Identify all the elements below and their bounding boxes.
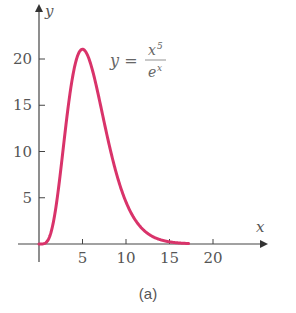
x-ticks: 5101520: [78, 239, 223, 267]
chart: 5101520 5101520 x y y = x 5 e x: [0, 0, 296, 285]
equation-annotation: y = x 5 e x: [109, 41, 166, 80]
y-tick-label: 20: [13, 50, 32, 68]
y-tick-label: 5: [22, 189, 32, 207]
y-ticks: 5101520: [13, 50, 45, 207]
x-tick-label: 20: [203, 249, 222, 267]
y-tick-label: 10: [13, 143, 32, 161]
equation-numerator-exponent: 5: [157, 41, 163, 51]
equation-lhs: y =: [109, 51, 138, 70]
x-tick-label: 10: [116, 249, 135, 267]
figure-caption: (a): [0, 285, 296, 302]
curve-series: [39, 49, 189, 244]
x-tick-label: 15: [160, 249, 179, 267]
equation-denominator: e: [148, 64, 156, 80]
y-tick-label: 15: [13, 96, 32, 114]
equation-numerator: x: [148, 42, 156, 58]
equation-denominator-exponent: x: [157, 63, 162, 73]
y-axis-label: y: [44, 2, 54, 20]
x-tick-label: 5: [78, 249, 88, 267]
x-axis-label: x: [256, 218, 265, 236]
